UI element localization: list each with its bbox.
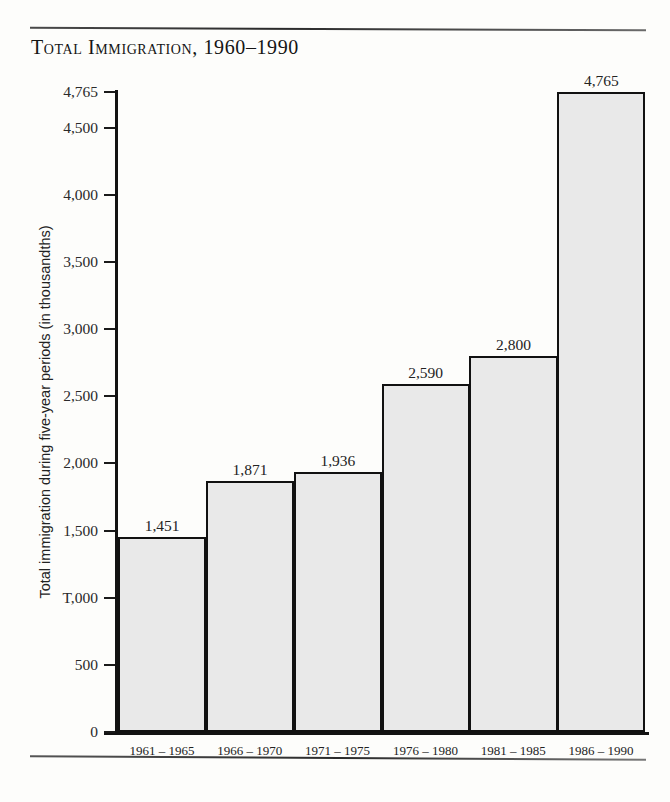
y-tick: 1,500 (104, 530, 115, 532)
bar: 1,451 (118, 537, 206, 732)
x-axis-line (104, 732, 649, 735)
y-axis-title: Total immigration during five-year perio… (34, 92, 56, 732)
y-axis-title-label: Total immigration during five-year perio… (37, 225, 53, 598)
y-tick: 4,000 (104, 194, 115, 196)
chart-title: Total Immigration, 1960–1990 (31, 36, 299, 59)
y-tick: 0 (104, 731, 115, 733)
bar-value-label: 4,765 (584, 72, 619, 90)
y-tick-label: 4,500 (63, 119, 98, 137)
bottom-divider-rule (30, 755, 646, 760)
plot-area: 0500T,0001,5002,0002,5003,0003,5004,0004… (118, 92, 645, 732)
y-tick-label: 3,500 (63, 253, 98, 271)
bar: 1,871 (206, 481, 294, 732)
bar: 4,765 (557, 92, 645, 732)
y-tick: 2,000 (104, 462, 115, 464)
y-tick-label: 1,500 (63, 522, 98, 540)
bar-value-label: 2,590 (408, 364, 443, 382)
bar-value-label: 2,800 (496, 336, 531, 354)
bar-series: 1,4511,8711,9362,5902,8004,765 (118, 92, 645, 732)
bar-value-label: 1,871 (233, 461, 268, 479)
y-tick: 3,000 (104, 328, 115, 330)
y-tick: 2,500 (104, 395, 115, 397)
top-divider-rule (30, 27, 646, 31)
y-tick-label: T,000 (63, 589, 98, 607)
y-tick: 4,765 (104, 91, 115, 93)
y-tick-label: 4,765 (63, 83, 98, 101)
bar-value-label: 1,936 (320, 452, 355, 470)
y-tick: T,000 (104, 597, 115, 599)
y-tick-label: 2,500 (63, 387, 98, 405)
x-axis-label: 1981 – 1985 (481, 743, 546, 759)
y-tick: 500 (104, 664, 115, 666)
y-tick: 3,500 (104, 261, 115, 263)
y-tick-label: 4,000 (63, 186, 98, 204)
figure: Total Immigration, 1960–1990 Total immig… (0, 0, 670, 802)
bar: 2,800 (469, 356, 557, 732)
y-tick-label: 2,000 (63, 454, 98, 472)
y-tick-label: 500 (75, 656, 98, 674)
y-tick-label: 0 (90, 723, 98, 741)
x-axis-label: 1986 – 1990 (569, 743, 634, 759)
bar-value-label: 1,451 (145, 517, 180, 535)
y-tick: 4,500 (104, 127, 115, 129)
bar: 1,936 (294, 472, 382, 732)
bar: 2,590 (382, 384, 470, 732)
y-tick-label: 3,000 (63, 320, 98, 338)
